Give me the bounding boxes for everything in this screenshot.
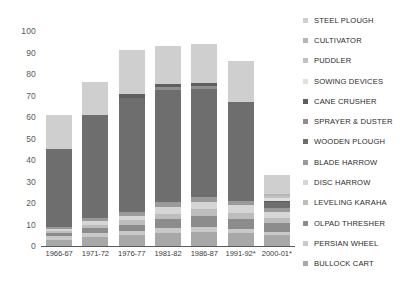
x-axis-line	[41, 246, 295, 247]
legend-item-label: DISC HARROW	[314, 178, 371, 187]
bar-segment	[82, 237, 108, 246]
legend-item[interactable]: WOODEN PLOUGH	[303, 132, 407, 152]
bar-stack[interactable]	[264, 175, 290, 246]
legend-item-label: OLPAD THRESHER	[314, 219, 385, 228]
y-axis-tick-label: 80	[26, 69, 36, 79]
bar-stack[interactable]	[228, 61, 254, 246]
legend-item-label: STEEL PLOUGH	[314, 16, 374, 25]
bar-segment	[228, 219, 254, 229]
legend-swatch-icon	[303, 200, 308, 205]
bar-segment	[264, 235, 290, 246]
legend-item[interactable]: SPRAYER & DUSTER	[303, 111, 407, 131]
y-axis-tick-label: 50	[26, 134, 36, 144]
legend-item[interactable]: LEVELING KARAHA	[303, 193, 407, 213]
bar-segment	[46, 115, 72, 149]
bar-segment	[264, 223, 290, 232]
legend-item-label: SPRAYER & DUSTER	[314, 117, 393, 126]
bar-segment	[82, 82, 108, 115]
y-axis-tick-label: 70	[26, 91, 36, 101]
legend-swatch-icon	[303, 18, 308, 23]
legend-swatch-icon	[303, 139, 308, 144]
legend-swatch-icon	[303, 38, 308, 43]
bar-segment	[119, 50, 145, 94]
y-axis-tick-label: 30	[26, 177, 36, 187]
bar-segment	[191, 216, 217, 227]
legend-item[interactable]: OLPAD THRESHER	[303, 213, 407, 233]
legend-item-label: LEVELING KARAHA	[314, 198, 387, 207]
x-axis: 1966-671971-721976-771981-821986-871991-…	[41, 249, 295, 265]
y-axis-tick-label: 40	[26, 155, 36, 165]
x-axis-tick-label: 1976-77	[114, 249, 150, 265]
legend-swatch-icon	[303, 119, 308, 124]
legend-swatch-icon	[303, 99, 308, 104]
legend-item[interactable]: DISC HARROW	[303, 172, 407, 192]
x-axis-tick-label: 1981-82	[150, 249, 186, 265]
bar-stack[interactable]	[82, 82, 108, 246]
x-axis-tick-label: 1971-72	[77, 249, 113, 265]
x-axis-tick-label: 1986-87	[186, 249, 222, 265]
bar-segment	[191, 44, 217, 83]
legend-item[interactable]: BULLOCK CART	[303, 254, 407, 274]
bar-segment	[155, 219, 181, 228]
legend-swatch-icon	[303, 241, 308, 246]
legend-swatch-icon	[303, 160, 308, 165]
bar-segment	[191, 89, 217, 197]
legend-item-label: BULLOCK CART	[314, 259, 374, 268]
bar-segment	[119, 235, 145, 246]
legend-item-label: SOWING DEVICES	[314, 77, 383, 86]
x-axis-tick-label: 2000-01*	[259, 249, 295, 265]
y-axis-tick-label: 10	[26, 220, 36, 230]
legend-item[interactable]: CULTIVATOR	[303, 30, 407, 50]
bar-segment	[82, 115, 108, 218]
y-axis-tick-label: 90	[26, 48, 36, 58]
x-axis-tick-label: 1991-92*	[223, 249, 259, 265]
legend-item-label: CULTIVATOR	[314, 36, 362, 45]
legend-item[interactable]: CANE CRUSHER	[303, 91, 407, 111]
bar-segment	[155, 90, 181, 202]
legend-swatch-icon	[303, 58, 308, 63]
bar-segment	[228, 233, 254, 246]
legend-item[interactable]: PERSIAN WHEEL	[303, 233, 407, 253]
bar-stack[interactable]	[119, 50, 145, 246]
y-axis-tick-label: 20	[26, 198, 36, 208]
bar-stack[interactable]	[46, 115, 72, 246]
chart-legend: STEEL PLOUGHCULTIVATORPUDDLERSOWING DEVI…	[303, 10, 407, 278]
y-axis-tick-label: 100	[21, 26, 36, 36]
legend-item[interactable]: SOWING DEVICES	[303, 71, 407, 91]
legend-item-label: PUDDLER	[314, 56, 351, 65]
bar-group	[41, 31, 295, 246]
legend-item[interactable]: BLADE HARROW	[303, 152, 407, 172]
bar-segment	[228, 102, 254, 201]
legend-swatch-icon	[303, 180, 308, 185]
bar-segment	[155, 233, 181, 246]
legend-swatch-icon	[303, 221, 308, 226]
bar-segment	[119, 98, 145, 212]
legend-swatch-icon	[303, 261, 308, 266]
legend-item[interactable]: STEEL PLOUGH	[303, 10, 407, 30]
bar-segment	[191, 232, 217, 246]
x-axis-tick-label: 1966-67	[41, 249, 77, 265]
legend-swatch-icon	[303, 79, 308, 84]
y-axis-tick-label: 0	[31, 241, 36, 251]
plot-area	[41, 31, 295, 246]
bar-stack[interactable]	[191, 44, 217, 246]
bar-segment	[191, 202, 217, 210]
y-axis: 0102030405060708090100	[0, 31, 36, 246]
bar-segment	[155, 46, 181, 84]
bar-segment	[46, 149, 72, 226]
bar-segment	[228, 205, 254, 213]
legend-item[interactable]: PUDDLER	[303, 51, 407, 71]
bar-stack[interactable]	[155, 46, 181, 246]
legend-item-label: CANE CRUSHER	[314, 97, 377, 106]
legend-item-label: WOODEN PLOUGH	[314, 137, 385, 146]
legend-item-label: BLADE HARROW	[314, 158, 377, 167]
bar-segment	[228, 61, 254, 102]
bar-segment	[264, 175, 290, 194]
y-axis-tick-label: 60	[26, 112, 36, 122]
chart-container: 0102030405060708090100 1966-671971-72197…	[0, 0, 407, 284]
legend-item-label: PERSIAN WHEEL	[314, 239, 378, 248]
